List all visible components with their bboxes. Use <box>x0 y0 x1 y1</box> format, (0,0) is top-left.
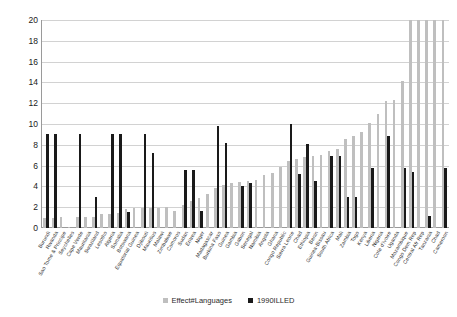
bar-group <box>335 20 343 228</box>
bar <box>404 168 407 228</box>
bar-group <box>156 20 164 228</box>
y-axis-tick-label: 0 <box>4 224 38 233</box>
legend-swatch-icon <box>248 298 253 303</box>
bar <box>200 211 203 228</box>
bar <box>144 134 147 228</box>
bar <box>192 170 195 228</box>
bar-group <box>237 20 245 228</box>
bar <box>79 134 82 228</box>
bar <box>263 175 266 228</box>
bar <box>100 214 103 228</box>
bar <box>173 211 176 228</box>
bar-group <box>66 20 74 228</box>
bar-group <box>148 20 156 228</box>
legend-item: Effect#Languages <box>163 296 232 305</box>
x-axis-labels: BurundiRwandaSao Tome & PrincipeSeychell… <box>41 229 449 291</box>
y-axis-tick-label: 2 <box>4 203 38 212</box>
bar <box>230 183 233 228</box>
bar <box>290 124 293 228</box>
bar <box>347 197 350 228</box>
bar <box>371 168 374 228</box>
bar <box>355 197 358 228</box>
y-axis: 02468101214161820 <box>0 20 38 228</box>
bar-group <box>343 20 351 228</box>
bar <box>217 126 220 228</box>
bar-group <box>42 20 50 228</box>
bar-group <box>310 20 318 228</box>
x-axis-tick-slot: Cameroon <box>440 229 448 291</box>
bar-group <box>196 20 204 228</box>
bar <box>279 167 282 228</box>
bar-group <box>131 20 139 228</box>
bar-group <box>351 20 359 228</box>
bar <box>60 217 63 228</box>
y-axis-tick-label: 6 <box>4 161 38 170</box>
bar-group <box>188 20 196 228</box>
y-axis-tick-label: 18 <box>4 37 38 46</box>
bar-group <box>270 20 278 228</box>
bar-group <box>229 20 237 228</box>
bar-group <box>359 20 367 228</box>
bar <box>314 181 317 228</box>
bar-group <box>408 20 416 228</box>
bar-group <box>440 20 448 228</box>
bar <box>306 144 309 228</box>
bar <box>68 227 71 228</box>
bar <box>133 208 136 228</box>
bar-group <box>83 20 91 228</box>
legend-label: Effect#Languages <box>172 296 232 305</box>
bar <box>152 153 155 228</box>
bar-group <box>123 20 131 228</box>
bar <box>119 134 122 228</box>
bar <box>111 134 114 228</box>
bar <box>84 217 87 228</box>
bar <box>271 173 274 228</box>
bar <box>393 100 396 228</box>
bar <box>241 186 244 228</box>
y-axis-tick-label: 20 <box>4 16 38 25</box>
bar-chart: 02468101214161820 BurundiRwandaSao Tome … <box>0 0 457 317</box>
bar <box>184 170 187 228</box>
bar <box>157 208 160 228</box>
bar-group <box>383 20 391 228</box>
y-axis-tick-label: 16 <box>4 57 38 66</box>
bar <box>320 155 323 228</box>
bar-group <box>140 20 148 228</box>
bar <box>339 156 342 228</box>
bar-group <box>213 20 221 228</box>
bar-group <box>326 20 334 228</box>
y-axis-tick-label: 4 <box>4 182 38 191</box>
bar <box>425 20 428 228</box>
bar-group <box>172 20 180 228</box>
bar <box>255 180 258 228</box>
bar <box>387 136 390 228</box>
bar-group <box>375 20 383 228</box>
bar <box>54 134 57 228</box>
bar <box>412 172 415 228</box>
bar-group <box>367 20 375 228</box>
bar-group <box>50 20 58 228</box>
y-axis-tick-label: 14 <box>4 78 38 87</box>
bar-group <box>400 20 408 228</box>
bar-group <box>115 20 123 228</box>
y-axis-tick-label: 8 <box>4 141 38 150</box>
bar-group <box>164 20 172 228</box>
bar <box>46 134 49 228</box>
bar-group <box>318 20 326 228</box>
bar <box>428 216 431 228</box>
bar <box>433 20 436 228</box>
bar-group <box>205 20 213 228</box>
y-axis-tick-label: 12 <box>4 99 38 108</box>
bar-group <box>245 20 253 228</box>
bar-group <box>253 20 261 228</box>
bar <box>206 194 209 228</box>
legend-label: 1990ILLED <box>257 296 295 305</box>
bar-group <box>302 20 310 228</box>
bar-group <box>75 20 83 228</box>
bar <box>298 174 301 228</box>
bar-group <box>432 20 440 228</box>
bar <box>95 197 98 228</box>
bar <box>127 212 130 228</box>
bar-group <box>294 20 302 228</box>
bars-layer <box>41 20 449 228</box>
